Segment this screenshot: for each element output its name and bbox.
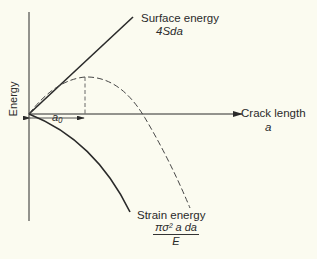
strain-energy-denominator: E	[146, 235, 206, 247]
y-axis-label: Energy	[7, 82, 19, 117]
x-axis-label: Crack length	[241, 107, 306, 120]
strain-energy-curve	[29, 114, 130, 212]
strain-energy-numerator: πσ² a da	[153, 221, 199, 235]
surface-energy-formula: 4Sda	[156, 25, 183, 38]
surface-energy-label: Surface energy	[141, 12, 219, 25]
total-energy-curve	[29, 77, 190, 208]
strain-energy-formula: πσ² a da E	[146, 221, 206, 247]
a0-label: a₀	[52, 111, 63, 124]
surface-energy-line	[29, 17, 133, 114]
x-axis-symbol: a	[265, 121, 271, 134]
